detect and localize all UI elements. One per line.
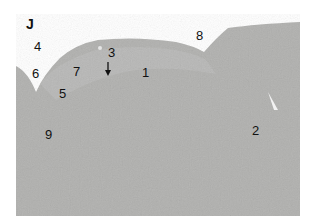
panel-label: J <box>26 17 34 31</box>
histology-micrograph: J 4 6 7 3 1 5 8 9 2 <box>16 14 300 216</box>
label-9: 9 <box>45 128 52 141</box>
label-2: 2 <box>252 124 259 137</box>
label-1: 1 <box>142 66 149 79</box>
label-6: 6 <box>32 67 39 80</box>
label-8: 8 <box>196 29 203 42</box>
label-7: 7 <box>73 65 80 78</box>
label-3: 3 <box>108 46 115 59</box>
label-5: 5 <box>59 87 66 100</box>
tissue-section <box>16 14 300 216</box>
arrow-down-icon <box>105 62 111 76</box>
label-4: 4 <box>34 40 41 53</box>
